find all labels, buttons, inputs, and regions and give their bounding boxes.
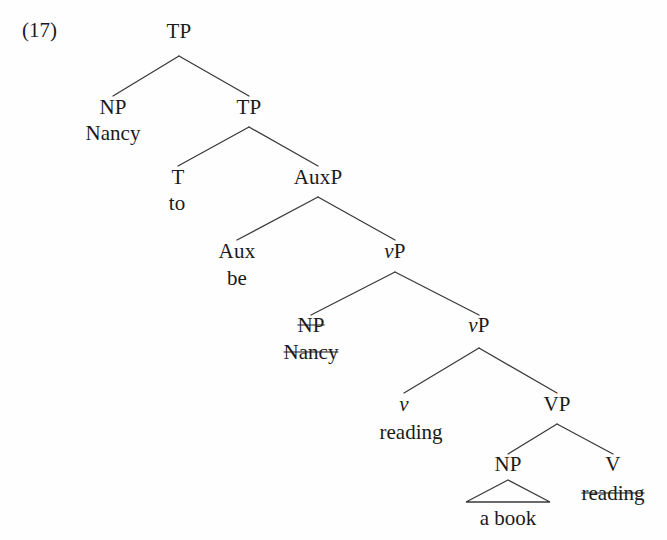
node-auxp: AuxP (294, 167, 343, 188)
node-np-subject: NP (99, 97, 126, 118)
node-vp-upper: vP (384, 241, 405, 262)
branch-vp-v (557, 424, 613, 454)
node-t: T (171, 167, 184, 188)
terminal-a-book: a book (480, 508, 537, 529)
branch-tp-np (113, 56, 179, 96)
node-vp-lower: vP (468, 315, 489, 336)
branch-vp-bigvp (479, 348, 557, 393)
terminal-to: to (169, 193, 185, 214)
node-v-head: V (605, 454, 620, 475)
terminal-be: be (227, 268, 247, 289)
branch-vp-vp (395, 272, 479, 315)
syntax-tree-figure: (17) TPNPTPTAuxPAuxvPNPvPvVPNPVNancytobe… (0, 0, 667, 540)
node-tp-inner: TP (237, 97, 262, 118)
branch-auxp-vp (318, 197, 395, 240)
terminal-reading-struck: reading (582, 483, 645, 504)
triangle-a-book (466, 480, 550, 502)
node-np-trace: NP (297, 315, 324, 336)
branch-tp-t (178, 127, 249, 166)
branch-auxp-aux (237, 197, 318, 240)
terminal-nancy-trace: Nancy (284, 342, 339, 363)
branch-tp-auxp (249, 127, 318, 166)
italic-v-glyph: v (468, 313, 478, 337)
branch-vp-npobj (508, 424, 557, 454)
node-tp-root: TP (167, 21, 192, 42)
node-aux: Aux (219, 241, 256, 262)
tree-branch-lines (0, 0, 667, 540)
terminal-reading-little-v: reading (380, 422, 443, 443)
italic-v-glyph: v (384, 239, 394, 263)
terminal-nancy-subject: Nancy (86, 123, 141, 144)
branch-tp-tp (179, 56, 249, 96)
node-vp-big: VP (543, 394, 570, 415)
branch-vp-np (311, 272, 395, 315)
branch-vp-littlev (404, 348, 479, 393)
node-np-object: NP (494, 454, 521, 475)
node-little-v: v (399, 394, 409, 415)
